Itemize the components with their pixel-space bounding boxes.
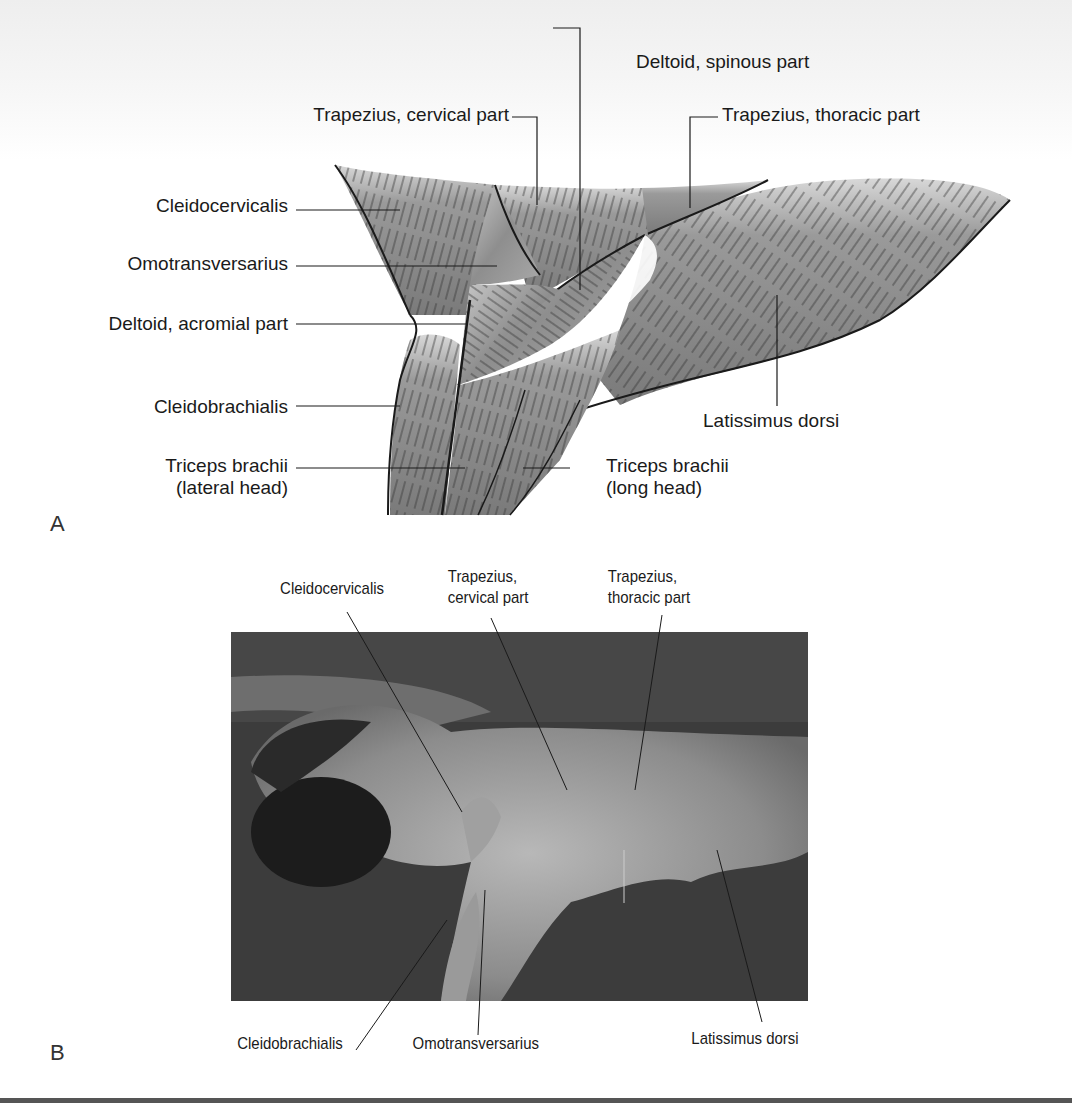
label-deltoid-spinous: Deltoid, spinous part <box>636 51 809 73</box>
label-deltoid-acromial: Deltoid, acromial part <box>30 313 288 335</box>
label-b-trapezius-cervical-2: cervical part <box>448 588 562 608</box>
photo-shapes <box>231 632 808 1001</box>
label-trapezius-cervical: Trapezius, cervical part <box>264 104 509 126</box>
label-latissimus-dorsi: Latissimus dorsi <box>703 410 839 432</box>
label-b-cleidocervicalis: Cleidocervicalis <box>280 579 384 599</box>
bottom-rule <box>0 1098 1072 1103</box>
panel-a-letter: A <box>50 511 65 537</box>
label-triceps-long-2: (long head) <box>606 477 702 499</box>
label-b-trapezius-cervical-1: Trapezius, <box>448 567 562 587</box>
label-b-trapezius-thoracic-2: thoracic part <box>608 588 722 608</box>
label-b-trapezius-thoracic-1: Trapezius, <box>608 567 722 587</box>
dissection-photo <box>231 632 808 1001</box>
label-triceps-lateral-2: (lateral head) <box>60 477 288 499</box>
label-triceps-long-1: Triceps brachii <box>606 455 729 477</box>
label-b-latissimus-dorsi: Latissimus dorsi <box>691 1029 798 1049</box>
label-cleidocervicalis: Cleidocervicalis <box>60 195 288 217</box>
label-trapezius-thoracic: Trapezius, thoracic part <box>722 104 920 126</box>
label-omotransversarius: Omotransversarius <box>60 253 288 275</box>
label-cleidobrachialis: Cleidobrachialis <box>60 396 288 418</box>
panel-b-letter: B <box>50 1040 65 1066</box>
label-triceps-lateral-1: Triceps brachii <box>60 455 288 477</box>
label-b-omotransversarius: Omotransversarius <box>413 1034 539 1054</box>
label-b-cleidobrachialis: Cleidobrachialis <box>237 1034 343 1054</box>
